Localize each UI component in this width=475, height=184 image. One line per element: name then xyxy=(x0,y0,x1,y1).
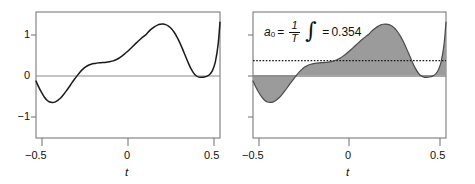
y-tick-label-1: 1 xyxy=(12,28,30,40)
integral-sign: ∫ xyxy=(305,20,316,42)
x-axis-ticks-left xyxy=(42,138,214,146)
annotation-fraction: 1 T xyxy=(289,20,300,44)
x-tick-label-neg05: −0.5 xyxy=(25,149,47,161)
signal-curve xyxy=(36,22,220,102)
annotation-result-equals: = xyxy=(322,26,329,38)
y-tick-label-0: 0 xyxy=(12,69,30,81)
x-tick-label-05: 0.5 xyxy=(204,149,219,161)
y-axis-ticks-right xyxy=(248,35,253,117)
y-axis-ticks-left xyxy=(31,35,36,117)
panel-signal-plot: 1 0 −1 −0.5 0 0.5 t xyxy=(0,0,237,184)
x-tick-label-0: 0 xyxy=(124,149,130,161)
x-axis-label: t xyxy=(346,166,349,178)
plot-frame-left xyxy=(36,12,220,138)
x-tick-label-0: 0 xyxy=(345,149,351,161)
annotation-result-value: 0.354 xyxy=(331,26,361,38)
y-tick-label-neg1: −1 xyxy=(8,110,30,122)
x-tick-label-neg05: −0.5 xyxy=(242,149,264,161)
fraction-numerator: 1 xyxy=(289,20,299,32)
figure-container: 1 0 −1 −0.5 0 0.5 t xyxy=(0,0,475,184)
annotation-subscript: 0 xyxy=(271,31,275,39)
mean-value-annotation: a0 = 1 T ∫ = 0.354 xyxy=(264,20,361,44)
annotation-symbol: a xyxy=(264,26,271,38)
x-tick-label-05: 0.5 xyxy=(430,149,445,161)
annotation-equals: = xyxy=(277,26,284,38)
x-axis-label: t xyxy=(125,166,128,178)
fraction-denominator: T xyxy=(289,32,300,45)
panel-integral-plot: a0 = 1 T ∫ = 0.354 −0.5 0 0.5 t xyxy=(238,0,475,184)
x-axis-ticks-right xyxy=(259,138,440,146)
